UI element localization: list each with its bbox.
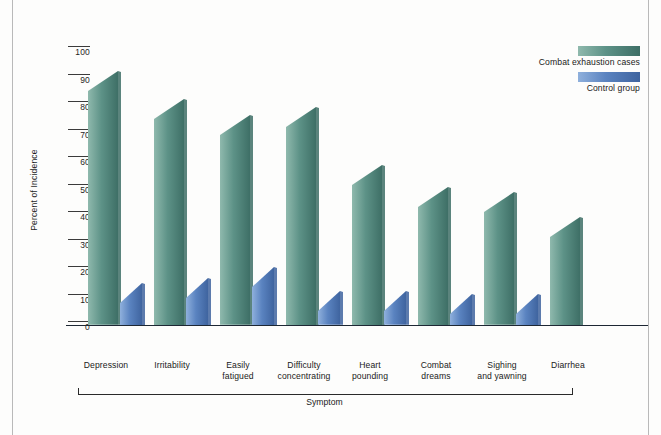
y-axis-title: Percent of Incidence [29,130,39,250]
y-tick-label: 80 [66,102,90,112]
y-tick-label: 90 [66,75,90,85]
bar-combat-exhaustion-7 [550,215,596,325]
legend-item-control-group: Control group [468,72,640,93]
y-tick-label: 70 [66,130,90,140]
legend-label-combat-exhaustion-cases: Combat exhaustion cases [539,57,640,67]
y-tick-label: 60 [66,157,90,167]
x-axis-bracket [78,388,573,395]
x-category-label-line: pounding [334,371,406,382]
bar-control-group-5 [450,292,488,325]
x-category-label: Irritability [136,360,208,371]
y-tick-label: 50 [66,185,90,195]
x-category-label: Depression [70,360,142,371]
y-tick-label: 40 [66,212,90,222]
y-tick-label: 30 [66,240,90,250]
y-tick-label: 100 [66,47,90,57]
bar-control-group-1 [186,276,224,326]
x-category-label: Easilyfatigued [202,360,274,382]
bar-control-group-0 [120,281,158,325]
x-category-label-line: Diarrhea [532,360,604,371]
x-category-label: Difficultyconcentrating [268,360,340,382]
x-axis-title: Symptom [78,397,571,407]
x-category-label-line: Difficulty [268,360,340,371]
x-category-label-line: and yawning [466,371,538,382]
x-category-label-line: fatigued [202,371,274,382]
bar-control-group-2 [252,265,290,326]
legend-item-combat-exhaustion-cases: Combat exhaustion cases [468,46,640,67]
y-tick-label: 20 [66,267,90,277]
bar-control-group-3 [318,289,356,325]
x-category-label-line: concentrating [268,371,340,382]
x-category-label-line: Combat [400,360,472,371]
x-category-label: Heartpounding [334,360,406,382]
x-category-label: Diarrhea [532,360,604,371]
x-category-label-line: Heart [334,360,406,371]
legend-swatch-combat-exhaustion-cases [578,46,640,56]
x-category-label: Sighingand yawning [466,360,538,382]
x-category-label: Combatdreams [400,360,472,382]
x-category-label-line: Depression [70,360,142,371]
bar-control-group-4 [384,289,422,325]
zero-baseline [66,325,648,326]
chart-figure: 0102030405060708090100 Percent of Incide… [0,0,661,435]
y-tick-label: 10 [66,295,90,305]
x-category-label-line: Easily [202,360,274,371]
legend-label-control-group: Control group [587,83,640,93]
plot-area: 0102030405060708090100 Percent of Incide… [0,0,661,435]
x-category-label-line: dreams [400,371,472,382]
legend-swatch-control-group [578,72,640,82]
bar-control-group-6 [516,292,554,325]
y-tick-label: 0 [66,322,90,332]
x-category-label-line: Irritability [136,360,208,371]
x-category-label-line: Sighing [466,360,538,371]
